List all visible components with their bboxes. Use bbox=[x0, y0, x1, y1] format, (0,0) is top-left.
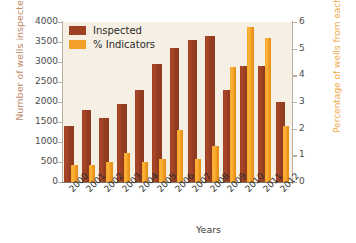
legend-label-indicators: % Indicators bbox=[93, 40, 155, 50]
left-tick-mark bbox=[58, 102, 62, 103]
x-tick-label: 2006 bbox=[173, 171, 196, 194]
right-tick-mark bbox=[293, 22, 297, 23]
x-tick-label: 2009 bbox=[225, 171, 248, 194]
right-tick-mark bbox=[293, 182, 297, 183]
right-tick-mark bbox=[293, 49, 297, 50]
x-tick-label: 2004 bbox=[137, 171, 160, 194]
x-tick-label: 2011 bbox=[261, 171, 284, 194]
legend-item-indicators: % Indicators bbox=[69, 39, 155, 50]
x-tick-label: 2010 bbox=[243, 171, 266, 194]
x-tick-labels: 2000200120022003200420052006200720082009… bbox=[0, 0, 356, 243]
x-tick-label: 2001 bbox=[84, 171, 107, 194]
left-tick-mark bbox=[58, 162, 62, 163]
right-tick-mark bbox=[293, 102, 297, 103]
right-tick-mark bbox=[293, 129, 297, 130]
left-tick-mark bbox=[58, 122, 62, 123]
left-tick-mark bbox=[58, 62, 62, 63]
legend-item-inspected: Inspected bbox=[69, 25, 155, 36]
legend-swatch-inspected bbox=[69, 26, 86, 35]
x-tick-label: 2005 bbox=[155, 171, 178, 194]
left-tick-mark bbox=[58, 182, 62, 183]
right-tick-mark bbox=[293, 75, 297, 76]
x-tick-label: 2002 bbox=[102, 171, 125, 194]
chart-legend: Inspected % Indicators bbox=[69, 25, 155, 53]
left-tick-mark bbox=[58, 82, 62, 83]
x-tick-label: 2003 bbox=[120, 171, 143, 194]
left-tick-mark bbox=[58, 42, 62, 43]
legend-swatch-indicators bbox=[69, 40, 86, 49]
right-tick-mark bbox=[293, 155, 297, 156]
x-tick-label: 2000 bbox=[67, 171, 90, 194]
x-tick-label: 2008 bbox=[208, 171, 231, 194]
chart-figure: 05001000150020002500300035004000 0123456… bbox=[0, 0, 356, 243]
left-tick-mark bbox=[58, 22, 62, 23]
legend-label-inspected: Inspected bbox=[93, 26, 142, 36]
left-tick-mark bbox=[58, 142, 62, 143]
